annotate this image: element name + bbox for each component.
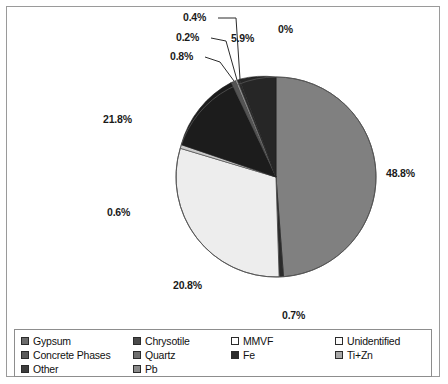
legend-swatch-tizn (335, 351, 343, 359)
pie-label-other: 0.4% (183, 11, 206, 23)
legend-swatch-pb (133, 365, 141, 373)
legend-item-concrete-phases[interactable]: Concrete Phases (21, 348, 133, 362)
legend-swatch-unidentified (335, 337, 343, 345)
legend-label-pb: Pb (145, 363, 157, 375)
pie-label-pb: 5.9% (231, 32, 254, 44)
legend-label-fe: Fe (243, 349, 255, 361)
pie-slice-chrysotile (276, 77, 376, 277)
pie-chart-graphic (7, 7, 441, 325)
legend-item-mmvf[interactable]: MMVF (231, 334, 335, 348)
legend-item-tizn[interactable]: Ti+Zn (335, 348, 435, 362)
pie-plot-area: 0.4% 0.2% 0.8% 5.9% 0% 21.8% 0.6% 20.8% … (7, 7, 441, 325)
pie-label-tizn: 0.2% (176, 31, 199, 43)
legend-item-gypsum[interactable]: Gypsum (21, 334, 133, 348)
leader-line-other (218, 18, 240, 79)
pie-label-mmvf: 0.7% (282, 309, 305, 321)
legend-swatch-chrysotile (133, 337, 141, 345)
legend-item-other[interactable]: Other (21, 362, 133, 376)
legend-swatch-quartz (133, 351, 141, 359)
pie-label-fe: 0.8% (170, 50, 193, 62)
legend-label-other: Other (33, 363, 58, 375)
legend-swatch-fe (231, 351, 239, 359)
leader-line-fe (205, 57, 234, 81)
leader-line-tizn (211, 38, 237, 80)
legend-label-tizn: Ti+Zn (347, 349, 373, 361)
legend-swatch-gypsum (21, 337, 29, 345)
chart-frame: 0.4% 0.2% 0.8% 5.9% 0% 21.8% 0.6% 20.8% … (6, 6, 440, 377)
legend-label-mmvf: MMVF (243, 335, 273, 347)
pie-label-concrete-phases: 0.6% (107, 206, 130, 218)
chart-legend: Gypsum Chrysotile MMVF Unidentified Conc (14, 329, 432, 377)
pie-label-unidentified: 20.8% (173, 279, 202, 291)
pie-label-quartz: 21.8% (103, 113, 132, 125)
legend-swatch-mmvf (231, 337, 239, 345)
legend-label-gypsum: Gypsum (33, 335, 71, 347)
legend-label-chrysotile: Chrysotile (145, 335, 190, 347)
legend-label-concrete-phases: Concrete Phases (33, 349, 111, 361)
legend-item-chrysotile[interactable]: Chrysotile (133, 334, 231, 348)
screenshot-root: 0.4% 0.2% 0.8% 5.9% 0% 21.8% 0.6% 20.8% … (0, 0, 448, 384)
legend-item-quartz[interactable]: Quartz (133, 348, 231, 362)
pie-label-gypsum: 0% (278, 23, 293, 35)
legend-label-quartz: Quartz (145, 349, 175, 361)
legend-item-pb[interactable]: Pb (133, 362, 231, 376)
legend-swatch-other (21, 365, 29, 373)
legend-item-unidentified[interactable]: Unidentified (335, 334, 435, 348)
legend-label-unidentified: Unidentified (347, 335, 400, 347)
legend-swatch-concrete-phases (21, 351, 29, 359)
legend-item-fe[interactable]: Fe (231, 348, 335, 362)
pie-label-chrysotile: 48.8% (386, 167, 415, 179)
